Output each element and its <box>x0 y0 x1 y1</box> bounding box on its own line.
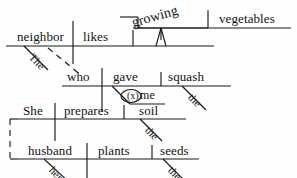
word-likes: likes <box>83 30 108 43</box>
word-squash: squash <box>168 70 204 83</box>
word-vegetables: vegetables <box>219 12 275 25</box>
word-seeds: seeds <box>160 144 189 157</box>
word-soil: soil <box>139 104 158 117</box>
gerund-pedestal-left <box>156 28 161 46</box>
word-plants: plants <box>98 144 130 157</box>
word-husband: husband <box>28 144 72 157</box>
sentence-diagram: neighbor likes growing vegetables The wh… <box>0 0 297 178</box>
word-me: me <box>140 89 155 101</box>
word-and-conjunction: and <box>0 147 1 163</box>
word-she: She <box>23 104 43 117</box>
word-neighbor: neighbor <box>17 30 64 43</box>
word-prepares: prepares <box>64 104 109 117</box>
elided-preposition-marker: (x) <box>127 91 139 101</box>
word-who: who <box>67 70 90 83</box>
gerund-pedestal-right <box>161 28 166 46</box>
word-gave: gave <box>113 70 138 83</box>
